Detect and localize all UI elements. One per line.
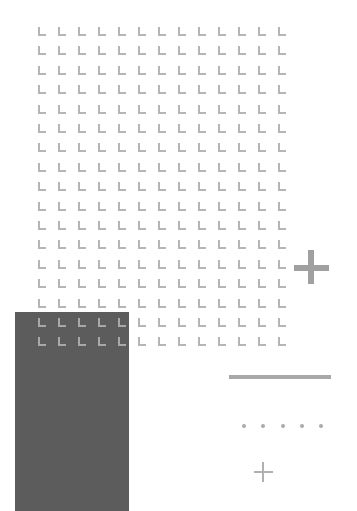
l-corner-icon [178,240,186,249]
l-corner-icon [58,299,66,308]
l-corner-icon [98,260,106,269]
l-corner-icon [218,337,226,346]
l-corner-icon [258,46,266,55]
l-corner-icon [138,318,146,327]
l-corner-icon [278,66,286,75]
l-corner-icon [158,143,166,152]
l-corner-icon [138,260,146,269]
l-corner-icon [278,124,286,133]
l-corner-icon [38,318,46,327]
l-corner-icon [258,124,266,133]
l-corner-icon [258,85,266,94]
l-corner-icon [78,27,86,36]
l-corner-icon [238,221,246,230]
l-corner-icon [118,279,126,288]
l-corner-icon [38,66,46,75]
l-corner-icon [258,66,266,75]
l-corner-icon [198,240,206,249]
l-corner-icon [158,240,166,249]
l-corner-icon [78,299,86,308]
l-corner-icon [118,66,126,75]
l-corner-icon [238,27,246,36]
l-corner-icon [238,240,246,249]
l-corner-icon [218,124,226,133]
l-corner-icon [238,299,246,308]
l-corner-icon [238,318,246,327]
l-corner-icon [198,163,206,172]
l-corner-icon [118,27,126,36]
l-corner-icon [258,260,266,269]
l-corner-icon [98,27,106,36]
l-corner-icon [38,46,46,55]
dot-icon [261,424,265,428]
l-corner-icon [258,337,266,346]
l-corner-icon [218,46,226,55]
l-corner-icon [38,143,46,152]
dot-icon [319,424,323,428]
l-corner-icon [178,337,186,346]
l-corner-icon [138,202,146,211]
l-corner-icon [98,85,106,94]
l-corner-icon [58,46,66,55]
l-corner-icon [138,163,146,172]
l-corner-icon [138,337,146,346]
l-corner-icon [98,318,106,327]
l-corner-icon [258,221,266,230]
l-corner-icon [138,143,146,152]
l-corner-icon [218,163,226,172]
l-corner-icon [98,105,106,114]
l-corner-icon [118,202,126,211]
l-corner-icon [238,163,246,172]
l-corner-icon [158,182,166,191]
l-corner-icon [198,66,206,75]
l-corner-icon [198,337,206,346]
l-corner-icon [58,260,66,269]
l-corner-icon [258,299,266,308]
l-corner-icon [58,318,66,327]
l-corner-icon [178,143,186,152]
l-corner-icon [258,143,266,152]
l-corner-icon [258,163,266,172]
l-corner-icon [158,27,166,36]
l-corner-icon [198,202,206,211]
l-corner-icon [78,66,86,75]
l-corner-icon [118,143,126,152]
l-corner-icon [198,318,206,327]
l-corner-icon [118,124,126,133]
l-corner-icon [138,66,146,75]
l-corner-icon [58,221,66,230]
l-corner-icon [218,66,226,75]
dot-icon [300,424,304,428]
l-corner-icon [38,27,46,36]
l-corner-icon [158,260,166,269]
l-corner-icon [58,240,66,249]
l-corner-icon [78,240,86,249]
l-corner-icon [78,105,86,114]
l-corner-icon [118,221,126,230]
l-corner-icon [118,260,126,269]
l-corner-icon [98,46,106,55]
l-corner-icon [238,279,246,288]
l-corner-icon [138,221,146,230]
l-corner-icon [78,163,86,172]
l-corner-icon [98,124,106,133]
l-corner-icon [58,27,66,36]
l-corner-icon [98,299,106,308]
l-corner-icon [178,27,186,36]
l-corner-icon [118,46,126,55]
l-corner-icon [158,299,166,308]
horizontal-divider-line [229,375,331,379]
l-corner-icon [138,279,146,288]
l-corner-icon [198,299,206,308]
l-corner-icon [58,202,66,211]
l-corner-icon [98,143,106,152]
l-corner-icon [178,299,186,308]
l-corner-icon [218,182,226,191]
l-corner-icon [278,85,286,94]
l-corner-icon [158,202,166,211]
l-corner-icon [158,85,166,94]
l-corner-icon [258,105,266,114]
dot-icon [281,424,285,428]
l-corner-icon [78,124,86,133]
l-corner-icon [58,124,66,133]
